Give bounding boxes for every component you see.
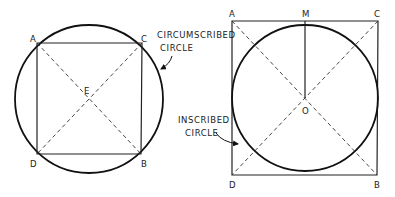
inscribed-annotation-line2: CIRCLE bbox=[185, 128, 219, 138]
circumscribed-annotation-line1: CIRCUMSCRIBED bbox=[157, 30, 236, 40]
geometry-diagram: A C D B E CIRCUMSCRIBED CIRCLE A M C D B… bbox=[0, 0, 395, 197]
point-label-d-right: D bbox=[229, 179, 236, 190]
center-label-e: E bbox=[84, 85, 89, 96]
circumscribed-figure: A C D B E CIRCUMSCRIBED CIRCLE bbox=[15, 25, 236, 173]
point-label-a-left: A bbox=[30, 33, 36, 44]
point-label-m: M bbox=[302, 8, 309, 19]
point-label-b-right: B bbox=[374, 179, 380, 190]
point-label-a-right: A bbox=[229, 8, 235, 19]
circumscribed-annotation-line2: CIRCLE bbox=[160, 43, 194, 53]
center-label-o: O bbox=[302, 105, 309, 116]
point-label-c-left: C bbox=[141, 33, 147, 44]
point-label-b-left: B bbox=[141, 158, 147, 169]
point-label-c-right: C bbox=[374, 8, 380, 19]
inscribed-arrow bbox=[216, 133, 238, 144]
point-label-d-left: D bbox=[30, 158, 37, 169]
inscribed-annotation-line1: INSCRIBED bbox=[178, 115, 230, 125]
circumscribed-arrow bbox=[161, 56, 172, 69]
